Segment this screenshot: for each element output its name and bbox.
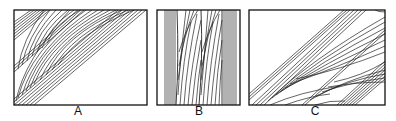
panel-b-vertical-right [224,10,236,105]
panel-a-label: A [68,104,88,118]
panel-b-label: B [189,104,209,118]
panel-b [165,10,236,105]
panel-b-foresets-right [201,10,222,105]
panel-c-label: C [305,104,325,118]
panel-b-frame [157,10,240,105]
panel-b-foresets-left [178,10,201,105]
panel-c [249,10,385,105]
panel-b-vertical-left [165,10,175,105]
panel-b-divider-left [176,10,178,105]
diagram-canvas [0,0,396,121]
panel-a [14,8,146,105]
